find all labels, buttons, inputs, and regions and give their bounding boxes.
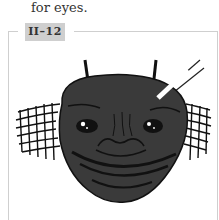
right-wing-mesh-icon bbox=[184, 104, 211, 160]
right-eye-icon bbox=[143, 119, 163, 133]
fly-face-illustration bbox=[0, 0, 219, 220]
left-eye-icon bbox=[76, 119, 98, 133]
left-wing-mesh-icon bbox=[16, 103, 60, 160]
fly-head bbox=[59, 74, 187, 202]
